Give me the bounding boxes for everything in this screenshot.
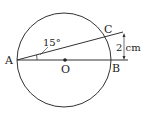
diagram-svg: A B C O 15° 2 cm: [0, 0, 145, 117]
arrow-down-icon: [123, 56, 126, 60]
label-o: O: [61, 63, 70, 76]
distance-label: 2 cm: [116, 42, 141, 53]
chord-line-ac: [17, 32, 123, 60]
label-b: B: [112, 62, 120, 75]
angle-label: 15°: [43, 37, 61, 48]
arrow-up-icon: [123, 33, 126, 37]
angle-arc: [37, 55, 38, 60]
center-dot: [63, 58, 67, 62]
circle-diagram: A B C O 15° 2 cm: [0, 0, 145, 117]
label-a: A: [4, 54, 14, 67]
angle-leader-line: [40, 47, 48, 55]
label-c: C: [104, 23, 112, 36]
